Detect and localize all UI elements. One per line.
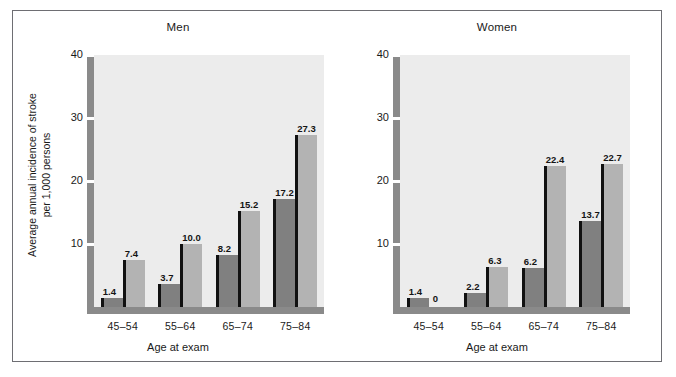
bar: 15.2 — [238, 211, 260, 307]
x-axis-title-men: Age at exam — [13, 341, 343, 353]
bar-value-label: 6.3 — [488, 255, 501, 266]
y-tick-label: 30 — [363, 111, 389, 123]
bar: 6.3 — [486, 267, 508, 307]
bar: 22.7 — [601, 164, 623, 307]
bar-value-label: 10.0 — [182, 232, 201, 243]
y-tick-label: 30 — [57, 111, 83, 123]
y-axis-title: Average annual incidence of stroke per 1… — [25, 65, 53, 285]
bar: 1.4 — [407, 298, 429, 307]
y-tick-label: 20 — [57, 174, 83, 186]
bar-value-label: 7.4 — [125, 248, 138, 259]
bar: 0 — [429, 305, 451, 307]
y-tick-label: 40 — [363, 48, 389, 60]
bar: 3.7 — [158, 284, 180, 307]
x-axis-title-women: Age at exam — [331, 341, 663, 353]
bar-body — [276, 199, 295, 307]
bar-value-label: 13.7 — [581, 209, 600, 220]
bar-value-label: 22.4 — [546, 154, 565, 165]
x-tick-label: 45–54 — [399, 320, 459, 332]
panel-title-men: Men — [13, 21, 343, 33]
bar-body — [604, 164, 623, 307]
y-axis — [393, 55, 400, 314]
panel-women: Women Age at exam 102030401.4045–542.26.… — [331, 11, 663, 363]
bar-value-label: 6.2 — [524, 256, 537, 267]
x-tick-label: 65–74 — [514, 320, 574, 332]
y-tick-label: 40 — [57, 48, 83, 60]
bar-body — [126, 260, 145, 307]
y-axis-title-line1: Average annual incidence of stroke — [26, 93, 38, 257]
panel-men: Men Average annual incidence of stroke p… — [13, 11, 343, 363]
y-tick-mark — [393, 54, 400, 57]
x-tick-label: 55–64 — [150, 320, 210, 332]
bar-body — [183, 244, 202, 307]
bar-value-label: 1.4 — [409, 286, 422, 297]
bar: 10.0 — [180, 244, 202, 307]
bar-body — [241, 211, 260, 307]
panel-title-women: Women — [331, 21, 663, 33]
bar-body — [161, 284, 180, 307]
bar: 27.3 — [295, 135, 317, 307]
bar-body — [410, 298, 429, 307]
bar: 6.2 — [522, 268, 544, 307]
y-tick-mark — [393, 243, 400, 246]
bar: 2.2 — [464, 293, 486, 307]
bar-value-label: 17.2 — [275, 187, 294, 198]
bar: 17.2 — [273, 199, 295, 307]
x-axis — [87, 307, 324, 314]
bar-body — [489, 267, 508, 307]
x-axis — [393, 307, 630, 314]
y-tick-mark — [87, 180, 94, 183]
bar-body — [582, 221, 601, 307]
y-axis-title-line2: per 1,000 persons — [40, 133, 52, 218]
x-tick-label: 45–54 — [93, 320, 153, 332]
y-tick-mark — [87, 54, 94, 57]
y-tick-label: 10 — [363, 237, 389, 249]
y-tick-mark — [393, 180, 400, 183]
bar-value-label: 8.2 — [218, 243, 231, 254]
bar-body — [467, 293, 486, 307]
bar-value-label: 1.4 — [103, 286, 116, 297]
y-tick-mark — [393, 117, 400, 120]
bar-value-label: 0 — [433, 293, 438, 304]
bar-body — [547, 166, 566, 307]
y-tick-mark — [87, 117, 94, 120]
bar: 8.2 — [216, 255, 238, 307]
bar-body — [104, 298, 123, 307]
bar: 7.4 — [123, 260, 145, 307]
bar-value-label: 15.2 — [240, 199, 259, 210]
bar-value-label: 22.7 — [603, 152, 622, 163]
y-tick-mark — [87, 243, 94, 246]
x-tick-label: 75–84 — [265, 320, 325, 332]
y-axis — [87, 55, 94, 314]
figure-frame: Men Average annual incidence of stroke p… — [12, 10, 662, 362]
y-tick-label: 10 — [57, 237, 83, 249]
bar: 13.7 — [579, 221, 601, 307]
bar: 1.4 — [101, 298, 123, 307]
bar-body — [219, 255, 238, 307]
x-tick-label: 65–74 — [208, 320, 268, 332]
bar-value-label: 27.3 — [297, 123, 316, 134]
figure-root: Men Average annual incidence of stroke p… — [0, 0, 676, 377]
bar-body — [525, 268, 544, 307]
bar-body — [298, 135, 317, 307]
x-tick-label: 75–84 — [571, 320, 631, 332]
bar-value-label: 3.7 — [160, 272, 173, 283]
y-tick-label: 20 — [363, 174, 389, 186]
bar-value-label: 2.2 — [466, 281, 479, 292]
x-tick-label: 55–64 — [456, 320, 516, 332]
bar: 22.4 — [544, 166, 566, 307]
